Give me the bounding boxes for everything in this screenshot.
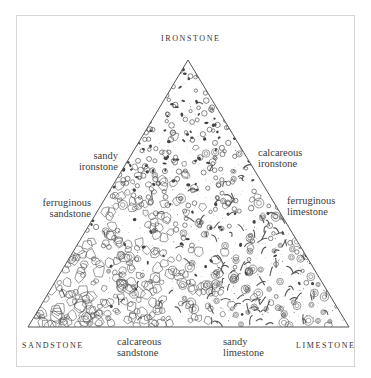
- label-line: limestone: [287, 206, 335, 217]
- label-line: ironstone: [79, 161, 118, 172]
- vertex-label-sandstone: SANDSTONE: [22, 341, 84, 350]
- label-line: sandy: [79, 150, 118, 161]
- label-ferruginous-limestone: ferruginous limestone: [287, 195, 335, 217]
- label-sandy-ironstone: sandy ironstone: [79, 150, 118, 172]
- label-line: calcareous: [258, 147, 302, 158]
- label-line: sandstone: [117, 347, 161, 358]
- label-line: calcareous: [117, 336, 161, 347]
- label-line: ferruginous: [287, 195, 335, 206]
- label-calcareous-sandstone: calcareous sandstone: [117, 336, 161, 358]
- label-line: ferruginous: [43, 197, 91, 208]
- label-line: sandstone: [43, 208, 91, 219]
- label-ferruginous-sandstone: ferruginous sandstone: [43, 197, 91, 219]
- vertex-label-ironstone: IRONSTONE: [161, 34, 221, 43]
- label-line: sandy: [223, 336, 264, 347]
- label-line: ironstone: [258, 158, 302, 169]
- label-sandy-limestone: sandy limestone: [223, 336, 264, 358]
- label-line: limestone: [223, 347, 264, 358]
- label-calcareous-ironstone: calcareous ironstone: [258, 147, 302, 169]
- vertex-label-limestone: LIMESTONE: [296, 341, 356, 350]
- ternary-triangle: [0, 0, 371, 378]
- triangle-outline: [28, 60, 349, 327]
